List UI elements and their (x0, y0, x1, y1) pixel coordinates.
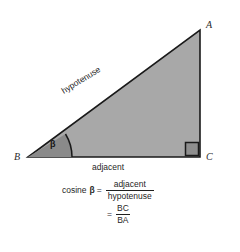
triangle-shape (28, 30, 200, 157)
side-label-adjacent: adjacent (92, 163, 124, 172)
formula-denominator-1: hypotenuse (106, 191, 154, 201)
formula-equals-1: = (95, 186, 106, 195)
formula-numerator-2: BC (116, 204, 130, 214)
formula-block: cosine β = adjacent hypotenuse = BC BA (0, 180, 240, 225)
vertex-label-c: C (206, 152, 213, 162)
formula-fraction-1: adjacent hypotenuse (106, 180, 154, 201)
formula-denominator-2: BA (116, 215, 129, 225)
formula-line-bc-over-ba: = BC BA (0, 204, 240, 225)
right-angle-marker (186, 143, 199, 156)
figure-root: A B C hypotenuse adjacent β cosine β = a… (0, 0, 240, 252)
formula-line-cosine-definition: cosine β = adjacent hypotenuse (0, 180, 240, 201)
formula-lhs-word: cosine (62, 186, 89, 195)
vertex-label-b: B (14, 152, 20, 162)
vertex-label-a: A (206, 20, 212, 30)
formula-fraction-2: BC BA (116, 204, 130, 225)
formula-equals-2: = (105, 210, 116, 219)
angle-label-beta: β (50, 140, 56, 149)
formula-numerator-1: adjacent (112, 180, 148, 190)
